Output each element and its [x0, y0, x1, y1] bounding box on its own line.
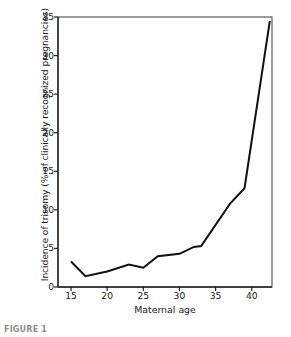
- x-axis-title: Maternal age: [58, 305, 272, 314]
- figure-caption: FIGURE 1: [4, 325, 154, 336]
- x-axis-tick-label: 30: [168, 291, 190, 300]
- x-axis-tick-label: 20: [96, 291, 118, 300]
- x-axis-tick-labels: 152025303540: [0, 291, 291, 305]
- x-axis-tick-label: 40: [241, 291, 263, 300]
- plot-frame: [58, 17, 272, 287]
- x-axis-tick-label: 25: [132, 291, 154, 300]
- data-line-series-0: [71, 21, 270, 276]
- x-axis-tick-label: 35: [205, 291, 227, 300]
- x-axis-tick-label: 15: [60, 291, 82, 300]
- figure-container: Incidence of trisomy (% of clinically re…: [0, 0, 291, 337]
- plot-area: [0, 0, 291, 337]
